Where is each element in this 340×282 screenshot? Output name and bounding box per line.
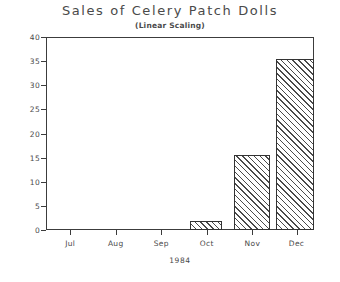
x-axis-title: 1984 [46, 256, 314, 265]
x-axis-tick-label-dec: Dec [289, 239, 304, 248]
bar-chart: Sales of Celery Patch Dolls (Linear Scal… [0, 0, 340, 282]
y-axis-tick-labels: 0510152025303540 [20, 37, 40, 230]
y-axis-tick-label: 5 [35, 201, 40, 210]
y-axis-tick-label: 0 [35, 226, 40, 235]
bar-nov [234, 155, 270, 230]
x-axis-tick-mark [116, 230, 117, 235]
y-axis-tick-label: 30 [30, 81, 40, 90]
x-axis-tick-label-nov: Nov [245, 239, 261, 248]
y-axis-tick-mark [41, 230, 46, 231]
x-axis-tick-mark [252, 230, 253, 235]
x-axis-tick-mark [70, 230, 71, 235]
x-axis-tick-label-aug: Aug [108, 239, 124, 248]
y-axis-tick-mark [41, 182, 46, 183]
y-axis-tick-mark [41, 109, 46, 110]
y-axis-tick-mark [41, 134, 46, 135]
chart-title: Sales of Celery Patch Dolls [0, 3, 340, 18]
y-axis-tick-mark [41, 85, 46, 86]
bar-dec [276, 59, 314, 230]
y-axis-tick-mark [41, 61, 46, 62]
y-axis-tick-label: 35 [30, 57, 40, 66]
x-axis-tick-label-sep: Sep [154, 239, 169, 248]
x-axis-tick-label-oct: Oct [200, 239, 214, 248]
bar-oct [190, 221, 222, 230]
y-axis-tick-mark [41, 158, 46, 159]
y-axis-tick-label: 40 [30, 33, 40, 42]
y-axis-tick-label: 25 [30, 105, 40, 114]
bars-layer [46, 37, 314, 230]
x-axis-tick-mark [207, 230, 208, 235]
y-axis-tick-label: 15 [30, 153, 40, 162]
y-axis-tick-label: 20 [30, 129, 40, 138]
x-axis-tick-label-jul: Jul [65, 239, 75, 248]
chart-subtitle: (Linear Scaling) [0, 21, 340, 30]
y-axis-tick-mark [41, 206, 46, 207]
x-axis-tick-mark [161, 230, 162, 235]
y-axis-tick-mark [41, 37, 46, 38]
y-axis-tick-label: 10 [30, 177, 40, 186]
x-axis-tick-mark [297, 230, 298, 235]
